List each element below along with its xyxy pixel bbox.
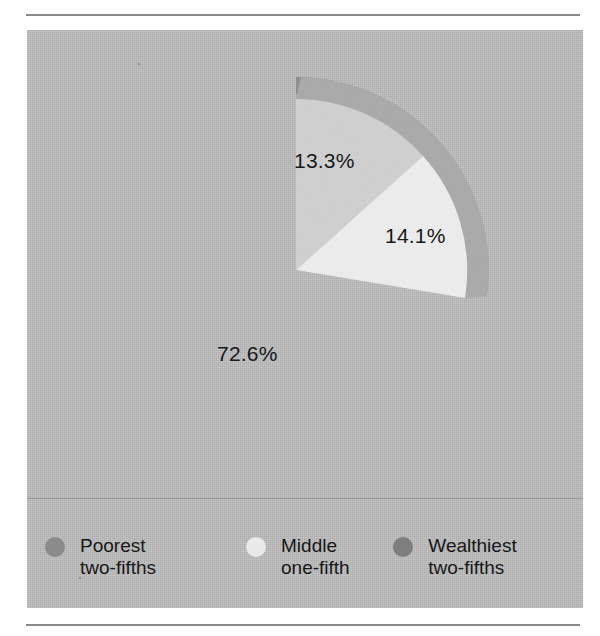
pie-label-middle: 13.3%	[294, 149, 355, 173]
legend-label-middle-line1: Middle	[281, 535, 337, 556]
legend-label-wealthiest-line2: two-fifths	[428, 557, 516, 579]
legend-swatch-circle-icon-poorest	[45, 537, 65, 557]
pie-label-wealthiest: 14.1%	[385, 224, 446, 248]
scan-speck	[79, 577, 81, 579]
pie-label-poorest: 72.6%	[217, 342, 278, 366]
chart-legend: Poorest two-fifths Middle one-fifth Weal…	[27, 499, 583, 608]
legend-label-poorest-line2: two-fifths	[80, 557, 156, 579]
legend-item-wealthiest[interactable]: Wealthiest two-fifths	[393, 535, 563, 579]
legend-label-middle: Middle one-fifth	[281, 535, 350, 579]
legend-swatch-circle-icon-wealthiest	[393, 537, 413, 557]
figure-panel: 13.3% 14.1% 72.6% Poorest two-fifths Mid…	[27, 30, 583, 608]
legend-swatch-circle-icon-middle	[246, 537, 266, 557]
bottom-horizontal-rule	[26, 624, 580, 626]
legend-label-wealthiest-line1: Wealthiest	[428, 535, 516, 556]
scan-speck	[138, 63, 140, 65]
pie-chart-svg	[27, 30, 583, 498]
legend-label-wealthiest: Wealthiest two-fifths	[428, 535, 516, 579]
top-horizontal-rule	[26, 14, 580, 16]
legend-label-middle-line2: one-fifth	[281, 557, 350, 579]
legend-item-middle[interactable]: Middle one-fifth	[246, 535, 373, 579]
legend-item-poorest[interactable]: Poorest two-fifths	[45, 535, 226, 579]
legend-label-poorest-line1: Poorest	[80, 535, 145, 556]
legend-label-poorest: Poorest two-fifths	[80, 535, 156, 579]
pie-chart-area: 13.3% 14.1% 72.6%	[27, 30, 583, 498]
